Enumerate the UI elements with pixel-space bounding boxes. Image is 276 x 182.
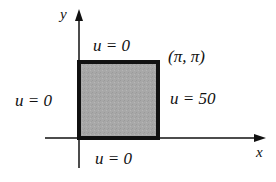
corner-point-label: (π, π)	[168, 48, 205, 65]
y-axis-arrow-icon	[75, 9, 83, 21]
square-region	[79, 62, 158, 138]
y-axis-label: y	[60, 7, 67, 22]
x-axis-arrow-icon	[254, 134, 266, 142]
left-boundary-condition: u = 0	[15, 92, 52, 109]
bottom-boundary-condition: u = 0	[95, 150, 132, 167]
x-axis-label: x	[256, 145, 263, 160]
top-boundary-condition: u = 0	[93, 37, 130, 54]
diagram-canvas: y x u = 0 u = 0 u = 50 u = 0 (π, π)	[0, 0, 276, 182]
right-boundary-condition: u = 50	[170, 90, 215, 107]
